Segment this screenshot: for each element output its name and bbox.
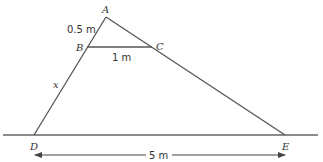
- measure-BC: 1 m: [112, 52, 131, 63]
- label-C: C: [156, 41, 164, 52]
- label-E: E: [281, 141, 290, 152]
- segment-AE: [106, 17, 285, 135]
- label-B: B: [75, 42, 83, 53]
- diagram-svg: A B C D E 0.5 m 1 m x 5 m: [0, 0, 323, 162]
- label-A: A: [101, 4, 109, 15]
- measure-AB: 0.5 m: [67, 24, 96, 35]
- similar-triangles-diagram: A B C D E 0.5 m 1 m x 5 m: [0, 0, 323, 162]
- measure-DE: 5 m: [149, 150, 168, 161]
- measure-BD: x: [53, 79, 59, 90]
- label-D: D: [29, 141, 38, 152]
